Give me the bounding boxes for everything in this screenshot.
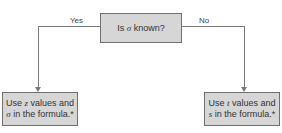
decision-box: Is σ known?	[100, 13, 182, 43]
no-connector-horizontal	[182, 26, 244, 27]
t-box-line2: s in the formula.*	[209, 109, 276, 120]
yes-connector-vertical	[38, 26, 39, 88]
no-connector-vertical	[244, 26, 245, 88]
t-box-line1: Use t values and	[208, 98, 275, 109]
yes-label: Yes	[70, 16, 83, 25]
t-values-box: Use t values and s in the formula.*	[204, 92, 280, 126]
z-box-line1: Use z values and	[6, 98, 74, 109]
no-label: No	[199, 16, 209, 25]
yes-connector-horizontal	[38, 26, 100, 27]
z-values-box: Use z values and σ in the formula.*	[2, 92, 78, 126]
z-box-line2: σ in the formula.*	[6, 109, 73, 120]
decision-text: Is σ known?	[117, 23, 165, 34]
